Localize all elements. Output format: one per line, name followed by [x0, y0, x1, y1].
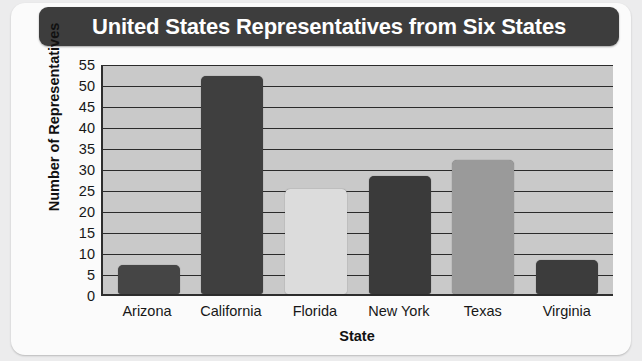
- x-tick-label: Virginia: [525, 303, 609, 319]
- bar-texas[interactable]: [452, 160, 514, 294]
- y-tick-label: 5: [63, 267, 95, 283]
- x-tick-label: Florida: [273, 303, 357, 319]
- y-tick-label: 10: [63, 246, 95, 262]
- bar-series: [103, 65, 613, 294]
- y-tick-label: 50: [63, 78, 95, 94]
- bar-slot: [525, 65, 609, 294]
- chart-card: United States Representatives from Six S…: [11, 3, 631, 355]
- y-axis-title: Number of Representatives: [46, 11, 62, 223]
- y-tick-label: 20: [63, 204, 95, 220]
- chart-title-bar: United States Representatives from Six S…: [39, 7, 619, 46]
- bar-california[interactable]: [201, 76, 263, 294]
- x-tick-label: California: [189, 303, 273, 319]
- y-tick-label: 55: [63, 57, 95, 73]
- y-tick-label: 45: [63, 99, 95, 115]
- plot-area: [101, 65, 613, 296]
- bar-arizona[interactable]: [118, 265, 180, 294]
- bar-florida[interactable]: [285, 189, 347, 294]
- bar-slot: [358, 65, 442, 294]
- bar-slot: [107, 65, 191, 294]
- y-axis-tick-labels: 0510152025303540455055: [63, 57, 95, 304]
- bar-new-york[interactable]: [369, 176, 431, 294]
- x-tick-label: New York: [357, 303, 441, 319]
- x-axis-title: State: [101, 328, 613, 344]
- bar-slot: [191, 65, 275, 294]
- bar-virginia[interactable]: [536, 260, 598, 294]
- x-tick-label: Arizona: [105, 303, 189, 319]
- y-tick-label: 25: [63, 183, 95, 199]
- y-tick-label: 35: [63, 141, 95, 157]
- y-tick-label: 15: [63, 225, 95, 241]
- y-tick-label: 40: [63, 120, 95, 136]
- plot-wrapper: [101, 65, 613, 296]
- x-axis-tick-labels: ArizonaCaliforniaFloridaNew YorkTexasVir…: [101, 303, 613, 319]
- bar-slot: [442, 65, 526, 294]
- bar-slot: [274, 65, 358, 294]
- x-tick-label: Texas: [441, 303, 525, 319]
- y-tick-label: 30: [63, 162, 95, 178]
- page-title: United States Representatives from Six S…: [92, 14, 566, 40]
- y-tick-label: 0: [63, 288, 95, 304]
